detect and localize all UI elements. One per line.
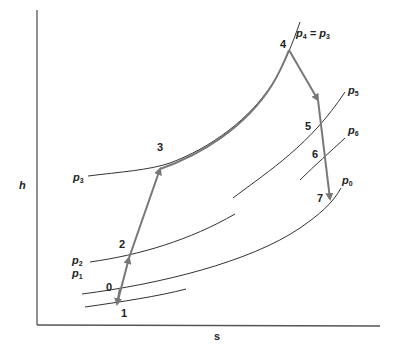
- isobar-p3-p4: [88, 22, 300, 176]
- process-4-5: [289, 50, 318, 100]
- x-axis-label: s: [214, 330, 220, 342]
- label-p0: p0: [341, 174, 353, 187]
- process-3-4: [160, 50, 289, 169]
- process-1-2: [117, 258, 129, 304]
- isobar-p2: [90, 214, 235, 262]
- state-5-label: 5: [305, 120, 311, 132]
- process-2-3: [129, 169, 160, 258]
- label-p4-eq-p3: p4 = p3: [295, 27, 330, 40]
- state-6-label: 6: [312, 148, 318, 160]
- y-axis-label: h: [19, 179, 26, 191]
- label-p3: p3: [72, 171, 84, 184]
- state-1-label: 1: [121, 307, 127, 319]
- state-4-label: 4: [280, 38, 287, 50]
- x-axis: [37, 325, 380, 326]
- diagram-svg: h s p3 p4 = p3 p5 p6 p0 p2 p1 0 1 2 3 4 …: [0, 0, 395, 359]
- state-7-label: 7: [317, 192, 323, 204]
- state-3-label: 3: [157, 141, 163, 153]
- label-p6: p6: [347, 124, 359, 137]
- state-2-label: 2: [119, 238, 125, 250]
- state-0-label: 0: [106, 281, 112, 293]
- label-p1: p1: [71, 267, 83, 280]
- label-p5: p5: [347, 84, 359, 97]
- h-s-diagram: h s p3 p4 = p3 p5 p6 p0 p2 p1 0 1 2 3 4 …: [0, 0, 395, 359]
- label-p2: p2: [71, 254, 83, 267]
